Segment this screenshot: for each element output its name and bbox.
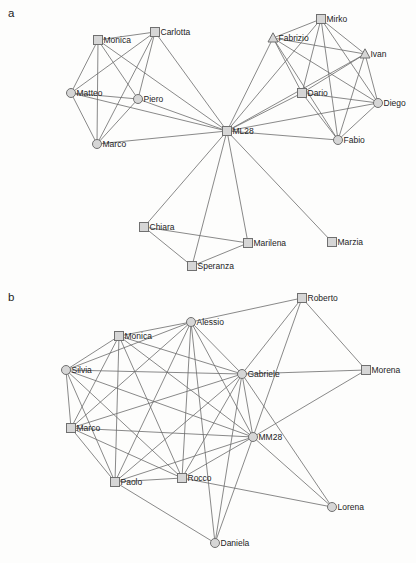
node-b-gabriele: Gabriele [238, 369, 280, 379]
circle-marker-icon [62, 366, 71, 375]
square-marker-icon [188, 262, 197, 271]
node-label-b-alessio: Alessio [197, 317, 225, 327]
node-a-ivan: Ivan [360, 49, 387, 59]
node-label-a-diego: Diego [384, 98, 406, 108]
edge-a-carlotta-marco [97, 32, 155, 144]
panel-letter-a: a [8, 7, 15, 19]
node-b-marco: Marco [67, 423, 101, 433]
node-b-mm28: MM28 [249, 432, 283, 442]
node-label-a-monica: Monica [104, 35, 132, 45]
node-label-b-rocco: Rocco [188, 473, 212, 483]
circle-marker-icon [134, 95, 143, 104]
panel-letter-b: b [8, 291, 14, 303]
edge-b-silvia-gabriele [66, 370, 242, 374]
node-a-piero: Piero [134, 94, 164, 104]
node-b-monica: Monica [115, 331, 153, 341]
node-a-carlotta: Carlotta [151, 27, 191, 37]
node-label-a-marzia: Marzia [338, 237, 364, 247]
edge-a-mirko-ivan [321, 19, 365, 54]
square-marker-icon [94, 36, 103, 45]
edge-a-ml28-marzia [227, 131, 332, 242]
node-label-a-ivan: Ivan [371, 49, 387, 59]
node-label-b-paolo: Paolo [121, 477, 143, 487]
node-label-a-mirko: Mirko [327, 14, 348, 24]
square-marker-icon [317, 15, 326, 24]
square-marker-icon [111, 478, 120, 487]
circle-marker-icon [334, 136, 343, 145]
panel-b-edges [66, 298, 366, 543]
node-label-b-roberto: Roberto [308, 293, 339, 303]
circle-marker-icon [67, 89, 76, 98]
circle-marker-icon [374, 99, 383, 108]
edge-b-silvia-alessio [66, 322, 191, 370]
node-a-matteo: Matteo [67, 88, 103, 98]
edge-b-alessio-rocco [182, 322, 191, 478]
node-label-b-mm28: MM28 [259, 432, 283, 442]
edge-b-silvia-marco [66, 370, 71, 428]
edge-b-morena-mm28 [253, 370, 366, 437]
node-a-monica: Monica [94, 35, 132, 45]
edge-b-monica-paolo [115, 336, 119, 482]
edge-b-lorena-mm28 [253, 437, 332, 507]
panel-a: MonicaCarlottaMatteoPieroMarcoML28MirkoF… [8, 7, 406, 271]
node-label-a-matteo: Matteo [77, 88, 103, 98]
edge-b-roberto-morena [302, 298, 366, 370]
node-label-a-carlotta: Carlotta [161, 27, 191, 37]
node-b-roberto: Roberto [298, 293, 339, 303]
social-network-figure: MonicaCarlottaMatteoPieroMarcoML28MirkoF… [0, 0, 416, 563]
square-marker-icon [244, 239, 253, 248]
circle-marker-icon [328, 503, 337, 512]
square-marker-icon [298, 294, 307, 303]
node-b-lorena: Lorena [328, 502, 365, 512]
node-label-b-lorena: Lorena [338, 502, 365, 512]
node-a-ml28: ML28 [223, 126, 255, 136]
network-graph-svg: MonicaCarlottaMatteoPieroMarcoML28MirkoF… [0, 0, 416, 563]
edge-b-daniela-gabriele [215, 374, 242, 543]
square-marker-icon [67, 424, 76, 433]
edge-a-mirko-diego [321, 19, 378, 103]
panel-b: MonicaAlessioRobertoSilviaGabrieleMorena… [8, 291, 401, 548]
edge-a-ml28-marilena [227, 131, 248, 243]
node-a-marilena: Marilena [244, 238, 287, 248]
node-a-chiara: Chiara [140, 222, 175, 232]
edge-a-ivan-diego [365, 54, 378, 103]
edge-b-marco-rocco [71, 428, 182, 478]
edge-b-daniela-alessio [191, 322, 215, 543]
square-marker-icon [178, 474, 187, 483]
edge-b-monica-marco [71, 336, 119, 428]
node-label-a-dario: Dario [308, 88, 329, 98]
node-label-b-daniela: Daniela [221, 538, 250, 548]
node-a-fabio: Fabio [334, 135, 366, 145]
node-label-a-marco: Marco [103, 139, 127, 149]
node-label-b-marco: Marco [77, 423, 101, 433]
node-b-paolo: Paolo [111, 477, 143, 487]
node-label-b-monica: Monica [125, 331, 153, 341]
circle-marker-icon [238, 370, 247, 379]
node-b-daniela: Daniela [211, 538, 250, 548]
node-b-alessio: Alessio [187, 317, 225, 327]
edge-a-ml28-monica [98, 40, 227, 131]
circle-marker-icon [211, 539, 220, 548]
node-a-marzia: Marzia [328, 237, 364, 247]
node-label-a-ml28: ML28 [233, 126, 255, 136]
edge-b-marco-paolo [71, 428, 115, 482]
square-marker-icon [115, 332, 124, 341]
edge-a-matteo-marco [71, 93, 97, 144]
square-marker-icon [151, 28, 160, 37]
square-marker-icon [298, 89, 307, 98]
node-label-a-piero: Piero [144, 94, 164, 104]
circle-marker-icon [93, 140, 102, 149]
node-a-speranza: Speranza [188, 261, 235, 271]
edge-a-chiara-speranza [144, 227, 192, 266]
node-label-a-speranza: Speranza [198, 261, 235, 271]
node-a-diego: Diego [374, 98, 406, 108]
edge-b-rocco-mm28 [182, 437, 253, 478]
triangle-marker-icon [268, 33, 278, 42]
edge-b-roberto-mm28 [253, 298, 302, 437]
edge-a-piero-marco [97, 99, 138, 144]
circle-marker-icon [187, 318, 196, 327]
square-marker-icon [140, 223, 149, 232]
node-label-b-gabriele: Gabriele [248, 369, 280, 379]
node-label-b-silvia: Silvia [72, 365, 93, 375]
node-label-a-fabrizio: Fabrizio [279, 33, 310, 43]
